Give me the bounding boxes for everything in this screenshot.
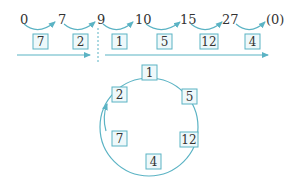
svg-text:2: 2 [116, 88, 124, 102]
diagram: 0 7 9 10 15 27 (0) 7 2 1 5 [0, 0, 299, 179]
top-numbers: 0 7 9 10 15 27 (0) [20, 12, 284, 27]
step-box: 7 [33, 34, 48, 49]
step-box: 1 [112, 34, 127, 49]
svg-text:4: 4 [249, 35, 257, 49]
svg-text:12: 12 [181, 133, 196, 147]
svg-text:5: 5 [186, 90, 194, 104]
svg-text:12: 12 [201, 35, 216, 49]
step-boxes: 7 2 1 5 12 4 [33, 34, 260, 49]
svg-text:1: 1 [116, 35, 124, 49]
number-3: 10 [135, 12, 152, 27]
cycle-box-lower-right: 12 [180, 132, 198, 147]
step-box: 12 [200, 34, 218, 49]
cycle-box-upper-right: 5 [182, 89, 197, 104]
step-box: 4 [245, 34, 260, 49]
number-4: 15 [180, 12, 197, 27]
step-box: 2 [73, 34, 88, 49]
cycle-box-top: 1 [142, 65, 157, 80]
svg-text:7: 7 [37, 35, 45, 49]
svg-text:7: 7 [116, 132, 124, 146]
svg-text:1: 1 [146, 66, 154, 80]
arrow-icon [103, 22, 133, 30]
arrow-icon [64, 22, 95, 30]
cycle-box-upper-left: 2 [112, 87, 127, 102]
cycle-box-lower-left: 7 [112, 131, 127, 146]
svg-text:4: 4 [150, 155, 158, 169]
arrow-icon [24, 22, 55, 30]
cycle-arrow-icon [104, 104, 107, 131]
cycle-box-bottom: 4 [146, 154, 161, 169]
number-6: (0) [266, 12, 284, 27]
svg-text:2: 2 [77, 35, 85, 49]
cycle-boxes: 1 5 12 4 7 2 [112, 65, 198, 169]
svg-text:5: 5 [161, 35, 169, 49]
arrow-icon [236, 22, 265, 30]
step-box: 5 [157, 34, 172, 49]
